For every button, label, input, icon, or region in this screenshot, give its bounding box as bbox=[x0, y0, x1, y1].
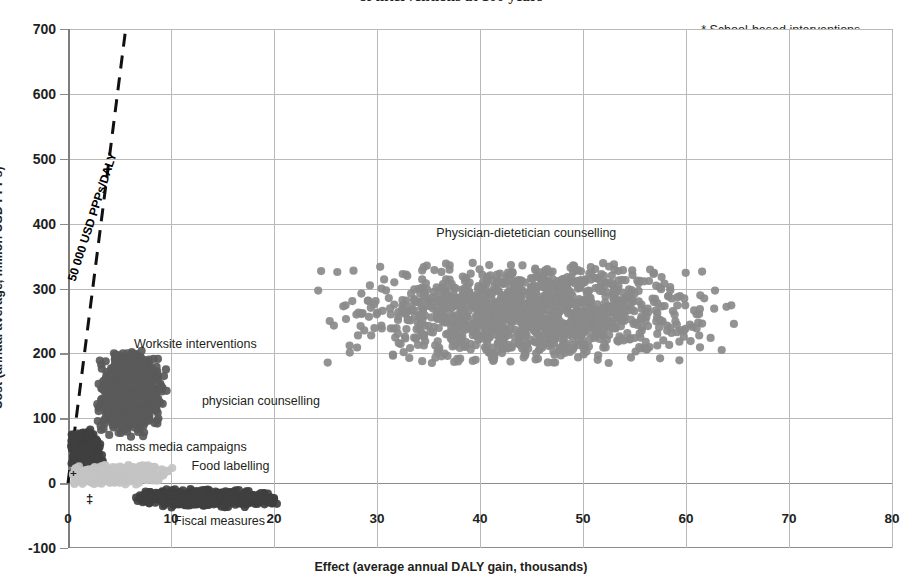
gridline-vertical bbox=[892, 29, 893, 548]
y-axis-tick bbox=[60, 94, 68, 95]
annotation-physician-dietetician-counselling: Physician-dietetician counselling bbox=[436, 226, 616, 240]
marker-food-advertising-regulation: ⁺ bbox=[70, 467, 77, 482]
annotation-physician-counselling: physician counselling bbox=[202, 394, 320, 408]
page-title: of interventions at 100 years bbox=[0, 0, 902, 5]
y-axis-tick-label: 300 bbox=[33, 281, 56, 297]
annotation-worksite-interventions: Worksite interventions bbox=[134, 337, 257, 351]
y-axis-tick bbox=[60, 548, 68, 549]
y-axis-tick bbox=[60, 224, 68, 225]
series-fiscal-measures bbox=[132, 485, 281, 512]
y-axis-tick bbox=[60, 353, 68, 354]
annotation-fiscal-measures: Fiscal measures bbox=[174, 514, 265, 528]
y-axis-tick-label: 700 bbox=[33, 21, 56, 37]
y-axis-title: Cost (annual average, million USD PPPs) bbox=[0, 166, 5, 409]
y-axis-tick bbox=[60, 289, 68, 290]
series-physician-dietetician-counselling bbox=[314, 259, 738, 367]
y-axis-tick-label: 500 bbox=[33, 151, 56, 167]
y-axis-tick-label: 0 bbox=[48, 475, 56, 491]
y-axis-tick bbox=[60, 159, 68, 160]
annotation-mass-media-campaigns: mass media campaigns bbox=[115, 440, 246, 454]
y-axis-tick-label: 100 bbox=[33, 410, 56, 426]
annotation-food-labelling: Food labelling bbox=[192, 459, 270, 473]
y-axis-tick-label: -100 bbox=[28, 540, 56, 556]
y-axis-tick-label: 400 bbox=[33, 216, 56, 232]
y-axis-tick-label: 600 bbox=[33, 86, 56, 102]
x-axis-title: Effect (average annual DALY gain, thousa… bbox=[0, 560, 902, 574]
y-axis-tick-label: 200 bbox=[33, 345, 56, 361]
y-axis-tick bbox=[60, 29, 68, 30]
scatter-plot-area: -100010020030040050060070001020304050607… bbox=[68, 29, 892, 548]
marker-food-advertising-self-regulation: ‡ bbox=[86, 491, 93, 506]
y-axis-tick bbox=[60, 418, 68, 419]
y-axis-tick bbox=[60, 483, 68, 484]
